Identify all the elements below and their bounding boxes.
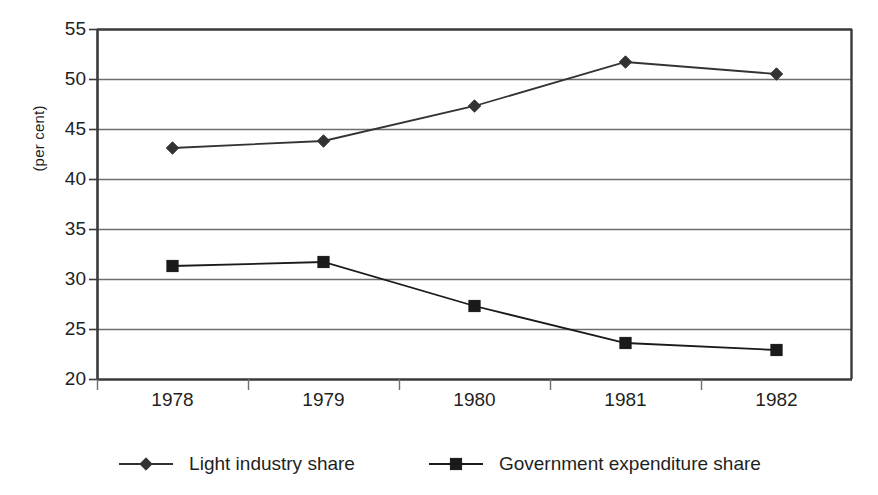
diamond-marker (117, 455, 175, 473)
legend-item[interactable]: Light industry share (117, 454, 355, 474)
x-tick-label: 1981 (581, 389, 671, 411)
square-marker (620, 337, 631, 348)
square-marker (318, 256, 329, 267)
x-axis-tick-labels: 19781979198019811982 (0, 389, 878, 419)
diamond-marker (770, 68, 782, 80)
data-series-layer (166, 56, 782, 356)
x-tick-label: 1982 (732, 389, 822, 411)
legend-key (427, 455, 485, 473)
diamond-marker (166, 142, 178, 154)
series-2 (167, 256, 782, 355)
legend-key (117, 455, 175, 473)
square-marker (450, 458, 461, 469)
axis-lines (89, 29, 852, 380)
series-1 (166, 56, 782, 154)
gridlines (97, 80, 852, 330)
x-tick-label: 1979 (279, 389, 369, 411)
square-marker (427, 455, 485, 473)
chart-legend: Light industry shareGovernment expenditu… (0, 444, 878, 484)
diamond-marker (468, 100, 480, 112)
legend-item[interactable]: Government expenditure share (427, 454, 761, 474)
square-marker (771, 344, 782, 355)
diamond-marker (140, 458, 152, 470)
square-marker (469, 300, 480, 311)
legend-label: Light industry share (189, 454, 355, 474)
chart-figure: (per cent) 2025303540455055 197819791980… (0, 0, 878, 495)
x-tick-label: 1978 (128, 389, 218, 411)
legend-label: Government expenditure share (499, 454, 761, 474)
plot-area (0, 0, 878, 495)
diamond-marker (317, 135, 329, 147)
diamond-marker (619, 56, 631, 68)
x-tick-label: 1980 (430, 389, 520, 411)
square-marker (167, 260, 178, 271)
